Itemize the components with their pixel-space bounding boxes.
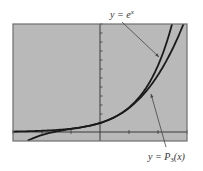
label-exp: y = ex [109, 8, 135, 20]
label-p3: y = P3(x) [147, 151, 186, 164]
chart: y = ex y = P3(x) [0, 0, 203, 171]
